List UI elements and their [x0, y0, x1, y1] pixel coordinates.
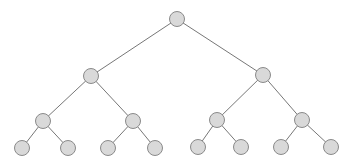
tree-node	[256, 68, 271, 83]
tree-node	[148, 141, 163, 156]
tree-edge	[217, 75, 263, 120]
tree-node	[126, 114, 141, 129]
tree-node	[61, 141, 76, 156]
tree-node	[210, 113, 225, 128]
tree-node	[324, 140, 339, 155]
tree-edge	[177, 19, 263, 75]
binary-tree-diagram	[0, 0, 348, 163]
tree-node	[191, 140, 206, 155]
tree-node	[101, 141, 116, 156]
tree-node	[295, 113, 310, 128]
tree-edges	[22, 19, 331, 148]
tree-edge	[43, 76, 91, 121]
tree-node	[170, 12, 185, 27]
tree-node	[15, 141, 30, 156]
tree-nodes	[15, 12, 339, 156]
tree-node	[274, 140, 289, 155]
tree-node	[234, 140, 249, 155]
tree-node	[84, 69, 99, 84]
tree-node	[36, 114, 51, 129]
tree-edge	[91, 76, 133, 121]
tree-edge	[263, 75, 302, 120]
tree-edge	[91, 19, 177, 76]
